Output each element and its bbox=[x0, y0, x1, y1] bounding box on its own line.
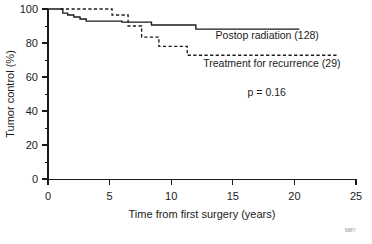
kaplan-meier-chart: 100 80 60 40 20 0 0 5 10 15 20 25 Time f… bbox=[0, 0, 372, 244]
y-tick-label-40: 40 bbox=[26, 105, 38, 117]
series-postop-radiation-curve bbox=[48, 9, 299, 29]
x-tick-label-25: 25 bbox=[350, 190, 362, 202]
x-tick-label-5: 5 bbox=[107, 190, 113, 202]
p-value-annotation: p = 0.16 bbox=[248, 86, 286, 98]
x-tick-label-15: 15 bbox=[227, 190, 239, 202]
x-axis-title: Time from first surgery (years) bbox=[129, 208, 276, 220]
x-tick-label-10: 10 bbox=[165, 190, 177, 202]
figure-container: 100 80 60 40 20 0 0 5 10 15 20 25 Time f… bbox=[0, 0, 372, 244]
x-tick-label-20: 20 bbox=[288, 190, 300, 202]
series-label-treatment-recurrence: Treatment for recurrence (29) bbox=[203, 57, 340, 69]
x-tick-label-0: 0 bbox=[45, 190, 51, 202]
y-tick-label-80: 80 bbox=[26, 37, 38, 49]
y-tick-label-60: 60 bbox=[26, 71, 38, 83]
y-tick-label-20: 20 bbox=[26, 139, 38, 151]
series-labels-group: Postop radiation (128) Treatment for rec… bbox=[203, 29, 340, 69]
y-tick-label-100: 100 bbox=[20, 3, 38, 15]
y-axis-tick-labels: 100 80 60 40 20 0 bbox=[20, 3, 38, 185]
x-axis-tick-labels: 0 5 10 15 20 25 bbox=[45, 190, 362, 202]
series-label-postop-radiation: Postop radiation (128) bbox=[216, 29, 319, 41]
y-axis-title: Tumor control (%) bbox=[4, 50, 16, 138]
y-tick-label-0: 0 bbox=[32, 173, 38, 185]
corner-watermark-text: 988Y bbox=[345, 228, 356, 233]
